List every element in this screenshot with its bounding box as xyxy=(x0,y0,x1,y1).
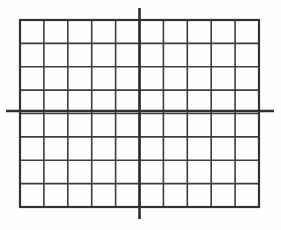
graph-figure xyxy=(0,0,281,230)
coordinate-grid-canvas xyxy=(0,0,281,230)
